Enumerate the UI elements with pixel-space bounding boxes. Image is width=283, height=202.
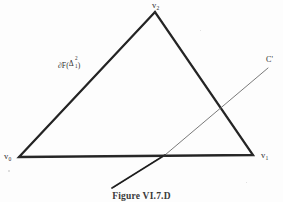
scan-speck (8, 170, 10, 172)
curve-c-prime-upper-segment (165, 68, 268, 155)
vertex-label-v1: v1 (261, 151, 268, 160)
simplex-triangle-group (19, 12, 253, 157)
boundary-face-label: ∂F(Δ21) (58, 60, 80, 69)
vertex-label-v0: v0 (4, 152, 11, 161)
simplex-triangle (19, 12, 253, 157)
vertex-label-v2-symbol: v (152, 0, 156, 10)
scan-speck (200, 30, 201, 31)
vertex-label-v1-symbol: v (261, 150, 265, 160)
figure-page: v2 v0 v1 ∂F(Δ21) C' Figure VI.7.D (0, 0, 283, 202)
delta-glyph: Δ (69, 60, 74, 68)
curve-c-prime-lower-ink-overlay (114, 156, 163, 187)
vertex-marker-v0 (18, 156, 20, 158)
curve-label-c-prime: C' (266, 56, 273, 64)
delta-simplex-symbol: Δ21 (69, 60, 78, 68)
figure-drawing-canvas (0, 0, 283, 202)
boundary-label-prefix: ∂F( (58, 61, 69, 70)
delta-superscript: 2 (75, 56, 78, 61)
figure-caption: Figure VI.7.D (0, 191, 283, 202)
vertex-label-v2: v2 (152, 1, 159, 10)
vertex-marker-v1 (252, 154, 254, 156)
boundary-label-suffix: ) (78, 61, 81, 70)
vertex-marker-v2 (154, 11, 156, 13)
delta-subscript: 1 (75, 64, 78, 69)
vertex-label-v0-symbol: v (4, 151, 8, 161)
